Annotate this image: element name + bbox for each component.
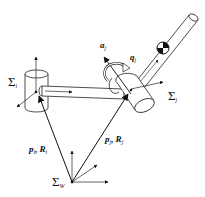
frame-j-origin [130, 89, 132, 91]
kinematics-diagram: Σi Σj ΣW aj qj pi,Ri pj,Rj [0, 0, 205, 197]
rotation-arrow-icon [105, 63, 130, 81]
link-ij [39, 86, 124, 99]
label-angle-q-j: qj [130, 52, 137, 63]
label-p-i-R-i: pi,Ri [28, 144, 47, 155]
label-p-j-R-j: pj,Rj [104, 134, 123, 145]
vector-p-i [39, 96, 72, 182]
label-axis-a-j: aj [100, 40, 107, 51]
center-of-mass-icon [157, 42, 169, 54]
label-frame-w: ΣW [52, 174, 66, 189]
frame-i-origin [35, 91, 38, 94]
frame-w-axes [72, 151, 108, 182]
label-frame-i: Σi [8, 74, 18, 89]
label-frame-j: Σj [168, 88, 178, 103]
